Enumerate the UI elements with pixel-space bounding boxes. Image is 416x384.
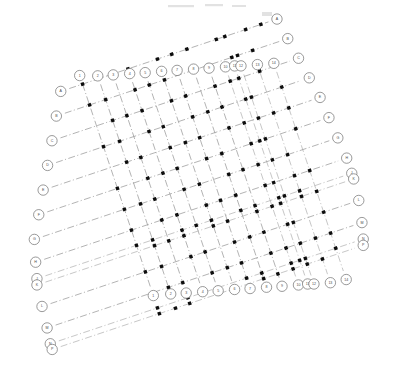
bubble-label: 4 — [129, 72, 131, 76]
bubble-label: 5 — [217, 289, 219, 293]
grid-bubble-row-left-D[interactable]: D — [42, 160, 52, 170]
bubble-label: H — [34, 260, 37, 264]
grid-bubble-column-bottom-1[interactable]: 1 — [148, 290, 158, 300]
grid-bubble-row-right-E[interactable]: E — [315, 92, 325, 102]
grid-bubble-column-top-6[interactable]: 6 — [156, 66, 166, 76]
grid-bubble-row-right-A[interactable]: A — [272, 14, 282, 24]
bubble-label: L — [358, 198, 360, 202]
grid-bubble-row-left-K[interactable]: K — [32, 280, 42, 290]
grid-bubble-column-bottom-8[interactable]: 8 — [261, 282, 271, 292]
bubble-label: G — [33, 237, 36, 241]
grid-bubble-row-left-H[interactable]: H — [30, 257, 40, 267]
grid-bubble-column-bottom-2[interactable]: 2 — [166, 289, 176, 299]
grid-bubble-column-bottom-13[interactable]: 13 — [325, 278, 335, 288]
grid-bubble-column-top-2[interactable]: 2 — [93, 71, 103, 81]
bubble-label: 8 — [193, 67, 195, 71]
bubble-label: H — [345, 156, 348, 160]
grid-bubble-column-top-14[interactable]: 14 — [269, 58, 279, 68]
grid-bubble-row-left-E[interactable]: E — [38, 185, 48, 195]
grid-bubble-row-left-B[interactable]: B — [51, 111, 61, 121]
bubble-label: 2 — [97, 74, 99, 78]
bubble-label: 6 — [161, 69, 163, 73]
grid-bubble-row-right-L[interactable]: L — [354, 195, 364, 205]
bubble-label: G — [336, 136, 339, 140]
bubble-label: 13 — [328, 281, 332, 285]
grid-bubble-column-top-12[interactable]: 12 — [236, 61, 246, 71]
grid-bubble-column-top-13[interactable]: 13 — [252, 59, 262, 69]
grid-bubble-column-top-9[interactable]: 9 — [204, 63, 214, 73]
bubble-label: M — [360, 221, 363, 225]
bubble-label: 10 — [296, 283, 300, 287]
grid-bubble-column-bottom-7[interactable]: 7 — [245, 283, 255, 293]
bubble-label: 2 — [170, 292, 172, 296]
grid-bubble-column-top-4[interactable]: 4 — [124, 68, 134, 78]
grid-bubble-row-left-P[interactable]: P — [47, 344, 57, 354]
grid-bubble-column-top-7[interactable]: 7 — [172, 65, 182, 75]
bubble-label: 14 — [344, 278, 348, 282]
grid-bubble-row-left-M[interactable]: M — [42, 323, 52, 333]
bubble-label: 6 — [234, 287, 236, 291]
grid-bubble-row-left-F[interactable]: F — [34, 210, 44, 220]
grid-bubble-column-bottom-14[interactable]: 14 — [341, 274, 351, 284]
bubble-label: 14 — [272, 61, 276, 65]
grid-bubble-row-right-B[interactable]: B — [283, 33, 293, 43]
grid-bubble-column-top-8[interactable]: 8 — [188, 64, 198, 74]
grid-bubble-column-top-10[interactable]: 10 — [220, 62, 230, 72]
grid-bubble-row-right-H[interactable]: H — [341, 153, 351, 163]
grid-bubble-column-top-5[interactable]: 5 — [140, 67, 150, 77]
bubble-label: 13 — [255, 63, 259, 67]
grid-bubble-column-top-1[interactable]: 1 — [75, 70, 85, 80]
grid-bubble-column-bottom-12[interactable]: 12 — [309, 279, 319, 289]
grid-bubble-row-left-C[interactable]: C — [47, 136, 57, 146]
bubble-label: 10 — [223, 65, 227, 69]
bubble-label: 1 — [152, 294, 154, 298]
grid-bubble-row-right-M[interactable]: M — [357, 217, 367, 227]
bubble-label: L — [41, 304, 43, 308]
bubble-label: 8 — [266, 285, 268, 289]
bubble-label: 7 — [176, 68, 178, 72]
grid-bubble-row-right-D[interactable]: D — [304, 73, 314, 83]
bubble-label: 7 — [249, 287, 251, 291]
bubble-label: 9 — [208, 66, 210, 70]
grid-bubble-column-bottom-5[interactable]: 5 — [213, 286, 223, 296]
grid-bubble-column-bottom-10[interactable]: 10 — [293, 280, 303, 290]
grid-bubble-row-left-G[interactable]: G — [29, 234, 39, 244]
grid-bubble-column-bottom-4[interactable]: 4 — [197, 287, 207, 297]
bubble-label: 9 — [281, 284, 283, 288]
bubble-label: 3 — [112, 73, 114, 77]
bubble-label: 4 — [202, 290, 204, 294]
bubble-label: M — [46, 326, 49, 330]
grid-bubble-row-left-L[interactable]: L — [37, 301, 47, 311]
bubble-label: C — [297, 56, 300, 60]
column-grid-drawing: 11223344556677889910101111121213131414AA… — [0, 0, 416, 384]
grid-bubble-column-bottom-3[interactable]: 3 — [181, 288, 191, 298]
grid-bubble-row-left-A[interactable]: A — [56, 86, 66, 96]
grid-bubble-row-right-F[interactable]: F — [324, 112, 334, 122]
bubble-label: 12 — [239, 64, 243, 68]
bubble-label: 1 — [79, 74, 81, 78]
grid-bubble-column-bottom-9[interactable]: 9 — [277, 281, 287, 291]
sheet-background — [0, 0, 416, 384]
bubble-label: D — [308, 76, 311, 80]
grid-bubble-row-right-C[interactable]: C — [293, 53, 303, 63]
grid-bubble-row-right-G[interactable]: G — [333, 133, 343, 143]
bubble-label: D — [46, 163, 49, 167]
grid-bubble-row-right-P[interactable]: P — [358, 240, 368, 250]
bubble-label: C — [51, 139, 54, 143]
grid-bubble-column-top-3[interactable]: 3 — [108, 70, 118, 80]
grid-bubble-row-right-K[interactable]: K — [348, 174, 358, 184]
bubble-label: 5 — [144, 71, 146, 75]
drawing-sheet: 11223344556677889910101111121213131414AA… — [0, 0, 416, 384]
bubble-label: 12 — [312, 282, 316, 286]
grid-bubble-column-bottom-6[interactable]: 6 — [229, 284, 239, 294]
bubble-label: 3 — [185, 291, 187, 295]
